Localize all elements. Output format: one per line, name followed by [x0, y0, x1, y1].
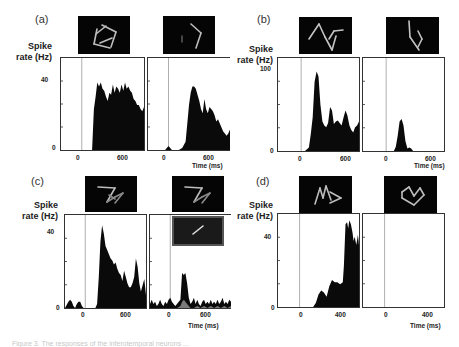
pentagon-sticks-icon	[78, 16, 130, 54]
panel-c-right-xtick-0: 0	[167, 311, 171, 318]
histogram-plot	[278, 214, 359, 307]
panel-b-ytick-min: 0	[270, 147, 274, 154]
panel-a-y-axis-label: Spike rate (Hz)	[8, 41, 52, 63]
panel-a-right-xtick-600: 600	[203, 154, 214, 161]
z-shape-sticks-icon	[172, 176, 224, 212]
panel-c-left-histogram	[64, 214, 147, 309]
figure-caption: Figure 3. The responses of the inferotem…	[12, 340, 189, 347]
panel-d-letter: (d)	[256, 175, 269, 187]
y-label-line2: rate (Hz)	[229, 211, 273, 222]
panel-c-xtick-0: 0	[81, 311, 85, 318]
y-label-line2: rate (Hz)	[8, 52, 52, 63]
panel-d-xtick-0: 0	[299, 311, 303, 318]
panel-a-right-histogram	[147, 57, 230, 151]
y-label-line1: Spike	[229, 200, 273, 211]
panel-b-ytick-max: 100	[260, 65, 271, 72]
single-bar-icon	[174, 218, 222, 244]
panel-b-x-axis-label: Time (ms)	[414, 162, 445, 169]
histogram-plot	[61, 58, 144, 150]
histogram-plot	[363, 214, 444, 307]
panel-c-x-axis-label: Time (ms)	[188, 322, 219, 329]
histogram-plot	[148, 58, 230, 150]
panel-c-right-stimulus-thumbnail	[172, 176, 224, 212]
panel-d-xtick-400: 400	[335, 311, 346, 318]
histogram-area	[148, 87, 230, 150]
y-label-line1: Spike	[229, 44, 273, 55]
panel-c-xtick-600: 600	[120, 311, 131, 318]
crown-sticks-icon	[384, 176, 437, 213]
y-label-line1: Spike	[8, 41, 52, 52]
panel-d-right-stimulus-thumbnail	[384, 176, 437, 213]
zigzag-sticks-icon	[299, 17, 352, 54]
histogram-plot	[278, 58, 359, 151]
panel-d-x-axis-label: Time (ms)	[410, 322, 441, 329]
panel-d-y-axis-label: Spike rate (Hz)	[229, 200, 273, 222]
y-label-line2: rate (Hz)	[8, 211, 58, 222]
histogram-plot	[65, 215, 146, 308]
histogram-area	[278, 220, 359, 307]
panel-c-right-histogram	[149, 214, 231, 309]
panel-a-right-stimulus-thumbnail	[163, 16, 215, 54]
arrow-sticks-icon	[299, 176, 352, 213]
panel-c-letter: (c)	[31, 175, 44, 187]
panel-d-left-stimulus-thumbnail	[299, 176, 352, 213]
panel-c-ytick-max: 40	[47, 228, 54, 235]
panel-c-ytick-min: 0	[56, 304, 60, 311]
panel-c-right-xtick-600: 600	[200, 311, 211, 318]
panel-d-ytick-max: 40	[264, 233, 271, 240]
panel-d-left-histogram	[277, 213, 360, 308]
z-shape-sticks-icon	[85, 176, 137, 212]
panel-a-ytick-max: 40	[41, 76, 48, 83]
panel-b-left-stimulus-thumbnail	[299, 17, 352, 54]
panel-b-left-histogram	[277, 57, 360, 152]
histogram-area	[363, 119, 444, 151]
panel-b-xtick-600: 600	[340, 155, 351, 162]
panel-d-right-xtick-0: 0	[384, 311, 388, 318]
panel-a-left-stimulus-thumbnail	[78, 16, 130, 54]
bent-line-sticks-icon	[386, 17, 439, 54]
panel-d-right-histogram	[362, 213, 445, 308]
panel-c-inset-single-bar-thumbnail	[172, 216, 224, 246]
panel-b-y-axis-label: Spike rate (Hz)	[229, 44, 273, 66]
panel-b-right-xtick-600: 600	[425, 155, 436, 162]
panel-b-letter: (b)	[257, 13, 270, 25]
panel-c-y-axis-label: Spike rate (Hz)	[8, 200, 58, 222]
panel-b-right-xtick-0: 0	[384, 155, 388, 162]
panel-a-xtick-0: 0	[76, 154, 80, 161]
histogram-plot	[363, 58, 444, 151]
panel-d-right-xtick-400: 400	[422, 311, 433, 318]
histogram-area	[65, 225, 146, 308]
panel-b-right-histogram	[362, 57, 445, 152]
panel-a-left-histogram	[60, 57, 145, 151]
panel-b-right-stimulus-thumbnail	[386, 17, 439, 54]
histogram-area	[278, 72, 359, 152]
panel-c-left-stimulus-thumbnail	[85, 176, 137, 212]
histogram-area	[150, 273, 231, 308]
histogram-area	[61, 83, 144, 151]
panel-a-right-xtick-0: 0	[162, 154, 166, 161]
panel-a-ytick-min: 0	[52, 144, 56, 151]
panel-d-ytick-min: 0	[271, 304, 275, 311]
panel-a-xtick-600: 600	[117, 154, 128, 161]
panel-b-xtick-0: 0	[298, 155, 302, 162]
panel-a-letter: (a)	[35, 13, 48, 25]
chevron-sticks-icon	[163, 16, 215, 54]
panel-a-x-axis-label: Time (ms)	[192, 162, 223, 169]
y-label-line1: Spike	[8, 200, 58, 211]
